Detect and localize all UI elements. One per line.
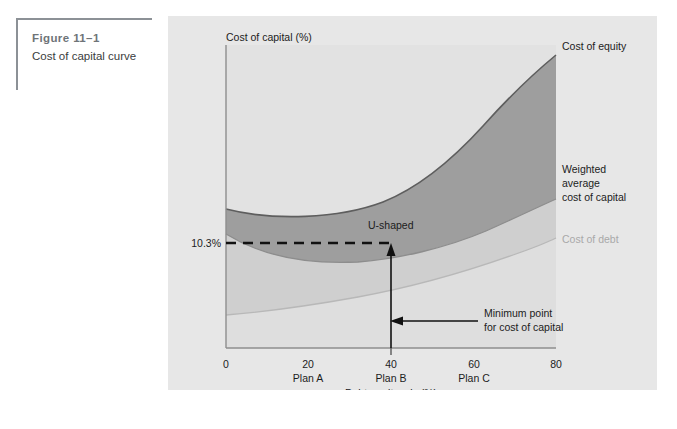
cost-of-equity-label: Cost of equity (562, 40, 627, 52)
figure-caption-block: Figure 11–1 Cost of capital curve (16, 18, 152, 94)
x-tick-label-40: 40 (385, 358, 397, 370)
x-tick-label-80: 80 (550, 358, 562, 370)
minimum-annotation-line2: for cost of capital (484, 321, 563, 333)
minimum-value-label: 10.3% (191, 237, 221, 249)
wacc-label-line1: Weighted (562, 163, 606, 175)
y-axis-title: Cost of capital (%) (226, 31, 312, 43)
plan-a-label: Plan A (293, 372, 323, 384)
figure-panel: Cost of capital (%) Cost of equity Weigh… (168, 16, 657, 390)
plan-c-label: Plan C (458, 372, 490, 384)
u-shaped-annotation: U-shaped (368, 219, 414, 231)
x-tick-label-60: 60 (468, 358, 480, 370)
minimum-annotation-line1: Minimum point (484, 307, 552, 319)
figure-number: Figure 11–1 (32, 32, 100, 44)
wacc-label-line2: average (562, 177, 600, 189)
caption-top-rule (16, 18, 152, 20)
cost-of-debt-label: Cost of debt (562, 233, 619, 245)
plan-b-label: Plan B (376, 372, 407, 384)
wacc-label-line3: cost of capital (562, 191, 626, 203)
caption-left-rule (16, 18, 18, 90)
x-axis-title: Debt-equity mix (%) (345, 387, 437, 390)
figure-title: Cost of capital curve (32, 50, 136, 62)
cost-of-capital-chart: Cost of capital (%) Cost of equity Weigh… (168, 16, 657, 390)
x-tick-label-0: 0 (223, 358, 229, 370)
x-tick-label-20: 20 (302, 358, 314, 370)
